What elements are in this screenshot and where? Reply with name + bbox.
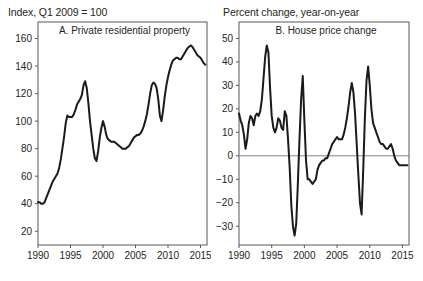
- y-tick-label: 160: [15, 33, 32, 44]
- y-tick-label: 140: [15, 61, 32, 72]
- y-tick-label: 10: [222, 127, 234, 138]
- chart-panel-a: Index, Q1 2009 = 100 A. Private resident…: [0, 0, 211, 281]
- x-tick-label: 2010: [359, 250, 382, 261]
- x-tick-label: 2005: [326, 250, 349, 261]
- data-series-line-0: [239, 45, 407, 235]
- y-tick-label: 50: [222, 33, 234, 44]
- y-tick-label: 40: [222, 56, 234, 67]
- x-tick-label: 2000: [92, 250, 115, 261]
- y-tick-label: 60: [21, 171, 33, 182]
- y-tick-label: 20: [222, 103, 234, 114]
- panel-a-plot: A. Private residential property204060801…: [0, 0, 211, 281]
- x-tick-label: 2000: [293, 250, 316, 261]
- y-tick-label: 120: [15, 88, 32, 99]
- panel-title: A. Private residential property: [59, 25, 190, 36]
- y-tick-label: 30: [222, 80, 234, 91]
- y-tick-label: −30: [216, 221, 233, 232]
- y-tick-label: 20: [21, 226, 33, 237]
- panel-b-plot: B. House price change−30−20−100102030405…: [211, 0, 423, 281]
- x-tick-label: 1990: [27, 250, 50, 261]
- x-tick-label: 2005: [124, 250, 147, 261]
- y-tick-label: 80: [21, 143, 33, 154]
- plot-frame: [38, 22, 207, 245]
- x-tick-label: 2015: [391, 250, 414, 261]
- x-tick-label: 1995: [261, 250, 284, 261]
- x-tick-label: 1995: [59, 250, 82, 261]
- data-series-line-0: [38, 45, 205, 203]
- y-tick-label: 40: [21, 198, 33, 209]
- y-tick-label: 0: [227, 150, 233, 161]
- figure-container: Index, Q1 2009 = 100 A. Private resident…: [0, 0, 423, 281]
- chart-panel-b: Percent change, year-on-year B. House pr…: [211, 0, 423, 281]
- y-tick-label: 100: [15, 116, 32, 127]
- x-tick-label: 1990: [228, 250, 251, 261]
- y-tick-label: −10: [216, 174, 233, 185]
- panel-title: B. House price change: [275, 25, 377, 36]
- y-tick-label: −20: [216, 197, 233, 208]
- x-tick-label: 2015: [189, 250, 211, 261]
- x-tick-label: 2010: [157, 250, 180, 261]
